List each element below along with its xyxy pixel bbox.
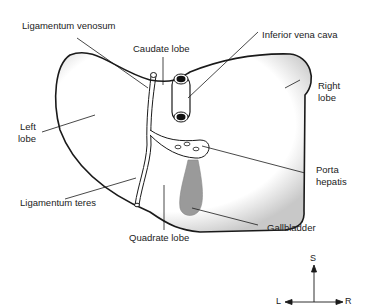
label-left-lobe-line2: lobe bbox=[18, 133, 36, 144]
label-left-lobe-line1: Left bbox=[20, 121, 36, 132]
label-right-lobe-line2: lobe bbox=[318, 92, 336, 103]
label-caudate-lobe: Caudate lobe bbox=[133, 43, 190, 54]
compass-label-right: R bbox=[345, 296, 352, 306]
label-inferior-vena-cava: Inferior vena cava bbox=[262, 29, 338, 40]
label-quadrate-lobe: Quadrate lobe bbox=[129, 232, 189, 243]
label-gallbladder: Gallbladder bbox=[267, 222, 316, 233]
ligamentum-venosum-end bbox=[151, 73, 157, 78]
compass-rose bbox=[285, 265, 343, 305]
ligamentum-teres-end bbox=[135, 203, 140, 207]
label-porta-hepatis-line2: hepatis bbox=[316, 176, 347, 187]
compass-label-superior: S bbox=[310, 253, 316, 263]
compass-label-left: L bbox=[276, 296, 281, 306]
label-right-lobe-line1: Right bbox=[318, 80, 340, 91]
label-ligamentum-teres: Ligamentum teres bbox=[20, 197, 96, 208]
label-ligamentum-venosum: Ligamentum venosum bbox=[22, 20, 115, 31]
label-porta-hepatis-line1: Porta bbox=[316, 164, 339, 175]
